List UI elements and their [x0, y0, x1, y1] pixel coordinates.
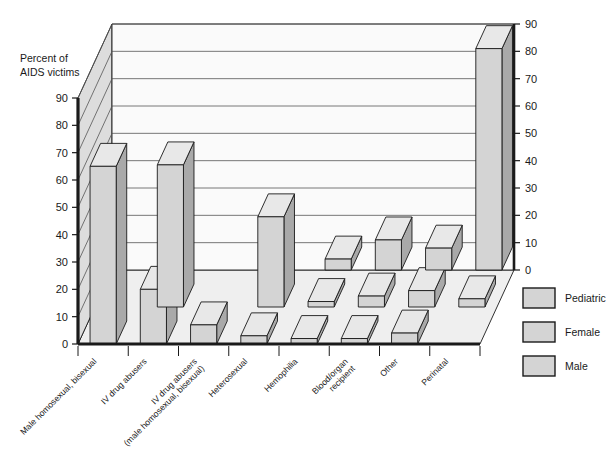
category-label: Blood/organrecipient: [310, 356, 357, 403]
legend-label-pediatric: Pediatric: [565, 292, 606, 304]
legend-swatch-male[interactable]: [523, 356, 555, 376]
category-label-line1: Other: [378, 356, 400, 378]
left-axis-tick-label: 60: [56, 174, 68, 186]
left-axis-tick-label: 80: [56, 119, 68, 131]
bar-front-face: [90, 166, 116, 344]
bar-front-face: [308, 302, 334, 307]
bar-front-face: [476, 49, 502, 270]
category-label-line1: Heterosexual: [206, 356, 249, 399]
right-axis-tick-label: 90: [525, 18, 537, 30]
bar-side-face: [502, 26, 513, 270]
right-axis-tick-label: 40: [525, 155, 537, 167]
category-label-line1: IV drug abusers: [99, 356, 149, 406]
left-axis-tick-labels: 0102030405060708090: [56, 92, 68, 350]
chart-legend: PediatricFemaleMale: [523, 288, 606, 376]
category-label: Male homosexual, bisexual: [18, 356, 98, 436]
aids-victims-3d-bar-chart: 0102030405060708090 0102030405060708090 …: [0, 0, 607, 462]
bar-front-face: [409, 291, 435, 307]
left-axis-tick-label: 50: [56, 201, 68, 213]
bar-front-face: [375, 240, 401, 270]
bar-front-face: [258, 217, 284, 307]
category-label-line1: Perinatal: [419, 356, 450, 387]
bar-front-face: [325, 259, 351, 270]
right-axis-tick-label: 60: [525, 100, 537, 112]
category-label: Hemophilia: [262, 356, 300, 394]
category-label-line1: Male homosexual, bisexual: [18, 356, 98, 436]
bar-front-face: [157, 165, 183, 307]
left-axis-tick-label: 70: [56, 147, 68, 159]
right-axis-tick-label: 50: [525, 127, 537, 139]
bar-side-face: [116, 143, 127, 344]
legend-swatch-female[interactable]: [523, 322, 555, 342]
left-axis-tick-label: 0: [62, 338, 68, 350]
bar-front-face: [426, 248, 452, 270]
bar-front-face: [392, 333, 418, 344]
left-axis-tick-label: 20: [56, 283, 68, 295]
category-label: IV drug abusers: [99, 356, 149, 406]
y-axis-title: Percent of AIDS victims: [20, 52, 80, 78]
right-axis-tick-label: 10: [525, 237, 537, 249]
y-axis-title-line1: Percent of: [20, 52, 68, 64]
right-axis-tick-label: 30: [525, 182, 537, 194]
y-axis-title-line2: AIDS victims: [20, 66, 80, 78]
category-label: Other: [378, 356, 400, 378]
bar-front-face: [358, 296, 384, 307]
category-label-line1: Hemophilia: [262, 356, 300, 394]
bar-front-face: [459, 299, 485, 307]
right-axis-tick-label: 20: [525, 209, 537, 221]
right-axis-tick-labels: 0102030405060708090: [525, 18, 537, 276]
bar-side-face: [183, 142, 194, 307]
category-label: Heterosexual: [206, 356, 249, 399]
left-axis-tick-label: 10: [56, 311, 68, 323]
right-axis-tick-label: 80: [525, 45, 537, 57]
legend-label-female: Female: [565, 326, 600, 338]
right-axis-tick-label: 0: [525, 264, 531, 276]
left-axis-tick-label: 90: [56, 92, 68, 104]
category-label: Perinatal: [419, 356, 450, 387]
left-axis-tick-label: 30: [56, 256, 68, 268]
bar-front-face: [191, 325, 217, 344]
left-axis-tick-label: 40: [56, 229, 68, 241]
right-axis-tick-label: 70: [525, 73, 537, 85]
legend-swatch-pediatric[interactable]: [523, 288, 555, 308]
category-axis-labels: Male homosexual, bisexualIV drug abusers…: [18, 356, 450, 448]
legend-label-male: Male: [565, 360, 588, 372]
chart-figure: 0102030405060708090 0102030405060708090 …: [0, 0, 607, 462]
